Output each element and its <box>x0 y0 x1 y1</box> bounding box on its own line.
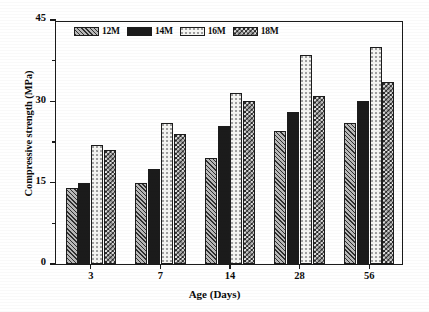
bar-12M-3 <box>66 188 78 264</box>
legend-item-14M: 14M <box>127 26 173 36</box>
bar-14M-28 <box>287 112 299 264</box>
y-axis-tick: 15 <box>50 182 56 183</box>
plot-area: 015304537142856 <box>55 21 403 265</box>
legend-item-12M: 12M <box>74 26 120 36</box>
y-axis-minor-tick <box>52 60 56 61</box>
legend-swatch-18M <box>233 27 258 36</box>
bar-12M-56 <box>344 123 356 264</box>
y-axis-tick-label: 30 <box>36 94 47 105</box>
bar-16M-28 <box>300 55 312 264</box>
bar-16M-14 <box>230 93 242 264</box>
x-axis-tick <box>299 264 300 269</box>
bar-14M-56 <box>357 101 369 264</box>
bar-18M-56 <box>382 82 394 264</box>
plot-frame-right <box>402 21 403 265</box>
bar-14M-7 <box>148 169 160 264</box>
bar-18M-28 <box>313 96 325 264</box>
y-axis-tick: 0 <box>50 263 56 264</box>
legend-label-18M: 18M <box>261 26 279 36</box>
chart-figure: Compressive strength (MPa) 0153045371428… <box>0 0 429 312</box>
plot-frame-top <box>55 21 403 22</box>
bar-12M-14 <box>205 158 217 264</box>
x-axis-tick <box>229 264 230 269</box>
legend-label-16M: 16M <box>208 26 226 36</box>
x-axis-tick <box>160 264 161 269</box>
bar-14M-14 <box>218 126 230 264</box>
bar-16M-56 <box>370 47 382 264</box>
chart-legend: 12M14M16M18M <box>72 25 281 37</box>
y-axis-title: Compressive strength (MPa) <box>23 34 34 234</box>
bar-14M-3 <box>78 183 90 264</box>
y-axis-minor-tick <box>52 141 56 142</box>
y-axis-minor-tick <box>52 223 56 224</box>
legend-label-14M: 14M <box>155 26 173 36</box>
x-axis-tick-label: 7 <box>158 270 163 281</box>
legend-swatch-12M <box>74 27 99 36</box>
x-axis-tick-label: 3 <box>88 270 93 281</box>
bar-12M-7 <box>135 183 147 264</box>
x-axis-tick-label: 14 <box>225 270 236 281</box>
x-axis-tick-label: 28 <box>294 270 305 281</box>
x-axis-title: Age (Days) <box>0 288 429 300</box>
legend-item-16M: 16M <box>180 26 226 36</box>
x-axis-tick-label: 56 <box>364 270 375 281</box>
y-axis-tick-label: 15 <box>36 175 47 186</box>
y-axis-tick: 30 <box>50 101 56 102</box>
x-axis-tick <box>369 264 370 269</box>
legend-label-12M: 12M <box>102 26 120 36</box>
y-axis-tick-label: 45 <box>36 12 47 23</box>
bar-18M-7 <box>174 134 186 264</box>
legend-item-18M: 18M <box>233 26 279 36</box>
bar-16M-3 <box>91 145 103 264</box>
y-axis-tick-label: 0 <box>41 256 46 267</box>
legend-swatch-16M <box>180 27 205 36</box>
bar-12M-28 <box>274 131 286 264</box>
bar-16M-7 <box>161 123 173 264</box>
bar-18M-14 <box>243 101 255 264</box>
legend-swatch-14M <box>127 27 152 36</box>
bar-18M-3 <box>104 150 116 264</box>
x-axis-tick <box>90 264 91 269</box>
